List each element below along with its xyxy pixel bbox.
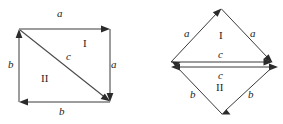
- square-left-edge-label: b: [8, 59, 14, 70]
- figure-canvas: [0, 0, 283, 124]
- square-left-edge-arrowhead: [16, 29, 23, 38]
- square-right-edge-label: a: [111, 59, 117, 70]
- rhombus-region-II-label: II: [216, 82, 223, 93]
- geometry-figure: a a b b c I II a a b b c c I II: [0, 0, 283, 124]
- square-region-I-label: I: [83, 38, 87, 49]
- left-square-group: [16, 26, 114, 106]
- square-diagonal: [20, 30, 105, 97]
- rhombus-upper-middle-edge-label: c: [218, 49, 223, 60]
- square-bottom-edge-arrowhead: [19, 99, 28, 106]
- rhombus-upper-left-edge-label: a: [184, 28, 190, 39]
- square-top-edge-label: a: [57, 8, 63, 19]
- rhombus-lower-left-edge-label: b: [190, 89, 196, 100]
- rhombus-lower-middle-edge-label: c: [218, 70, 223, 81]
- rhombus-upper-right-edge: [222, 9, 269, 58]
- rhombus-upper-left-edge: [171, 13, 217, 62]
- rhombus-lower-right-edge-arrowhead: [222, 109, 231, 114]
- rhombus-region-I-label: I: [219, 30, 223, 41]
- square-top-edge-arrowhead: [101, 26, 110, 33]
- square-region-II-label: II: [41, 73, 48, 84]
- rhombus-upper-right-edge-label: a: [250, 28, 256, 39]
- right-rhombus-group: [171, 9, 278, 115]
- square-bottom-edge-label: b: [59, 106, 65, 117]
- square-diagonal-label: c: [66, 51, 71, 62]
- rhombus-lower-right-edge-label: b: [248, 89, 254, 100]
